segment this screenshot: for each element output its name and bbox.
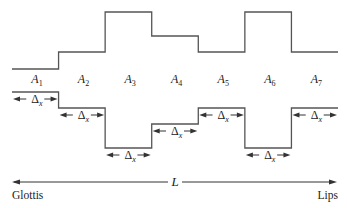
svg-text:Δx: Δx (78, 108, 90, 124)
section-length-arrows: ΔxΔxΔxΔxΔxΔxΔx (13, 92, 337, 164)
delta-x-arrow-1: Δx (13, 92, 58, 108)
area-label-6: A6 (263, 72, 275, 88)
svg-text:Δx: Δx (311, 108, 323, 124)
svg-text:Δx: Δx (218, 108, 230, 124)
area-label-3: A3 (123, 72, 135, 88)
total-length-arrow: L (12, 174, 337, 189)
arrow-left-icon (12, 180, 20, 185)
delta-x-arrow-7: Δx (292, 108, 337, 124)
arrow-right-icon (329, 180, 337, 185)
total-length-label: L (170, 174, 178, 189)
area-label-2: A2 (77, 72, 89, 88)
svg-text:Δx: Δx (124, 148, 136, 164)
area-label-7: A7 (310, 72, 322, 88)
vocal-tract-tube-diagram: A1A2A3A4A5A6A7 ΔxΔxΔxΔxΔxΔxΔx L Glottis … (0, 0, 347, 208)
tube-lower-wall (12, 92, 338, 148)
glottis-label: Glottis (12, 189, 44, 201)
area-label-4: A4 (170, 72, 182, 88)
area-labels: A1A2A3A4A5A6A7 (30, 72, 322, 88)
delta-x-arrow-5: Δx (199, 108, 244, 124)
delta-x-arrow-4: Δx (153, 124, 198, 140)
delta-x-arrow-3: Δx (106, 148, 151, 164)
svg-text:Δx: Δx (264, 148, 276, 164)
svg-text:Δx: Δx (31, 92, 43, 108)
area-label-1: A1 (30, 72, 42, 88)
lips-label: Lips (318, 189, 339, 202)
tube-upper-wall (12, 12, 338, 69)
delta-x-arrow-2: Δx (60, 108, 105, 124)
area-label-5: A5 (217, 72, 229, 88)
delta-x-arrow-6: Δx (246, 148, 291, 164)
svg-text:Δx: Δx (171, 124, 183, 140)
